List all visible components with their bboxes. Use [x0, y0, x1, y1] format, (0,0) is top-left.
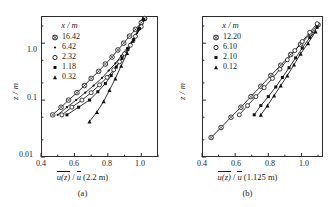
- x-axis-label-a: u(z) / u (2.2 m): [0, 172, 165, 182]
- x-axis-denominator-b: u: [237, 172, 241, 182]
- x-axis-reference-b: (1.125 m): [244, 172, 278, 182]
- panel-a: z / m 1.0 0.1 0.01 0.4 0.6 0.8 1.0 x / m…: [0, 0, 165, 207]
- x-axis-label-b: u(z) / u (1.125 m): [165, 172, 330, 182]
- x-axis-denominator-a: u: [77, 172, 81, 182]
- x-axis-numerator-a: u(z): [57, 172, 70, 182]
- curve-b-2.10: [254, 27, 317, 115]
- panel-caption-a: (a): [0, 188, 165, 198]
- panel-caption-b: (b): [165, 188, 330, 198]
- x-axis-numerator-b: u(z): [218, 172, 231, 182]
- curve-a-1.18: [67, 20, 144, 115]
- panel-b: z / m 0.4 0.6 0.8 1.0 x / m 12.20 6.10: [165, 0, 330, 207]
- figure-velocity-profiles: z / m 1.0 0.1 0.01 0.4 0.6 0.8 1.0 x / m…: [0, 0, 330, 207]
- x-axis-reference-a: (2.2 m): [83, 172, 108, 182]
